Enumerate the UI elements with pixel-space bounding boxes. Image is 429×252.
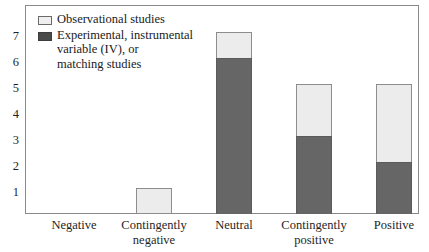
legend-label-experimental-line2: variable (IV), or xyxy=(57,42,139,56)
y-axis: 7 6 5 4 3 2 1 xyxy=(0,0,22,252)
legend-item-observational: Observational studies xyxy=(38,12,268,27)
bar-contingently-positive xyxy=(296,84,332,214)
bar-segment-experimental xyxy=(296,136,332,214)
bar-positive xyxy=(376,84,412,214)
y-tick-label-3: 3 xyxy=(13,134,19,146)
chart-legend: Observational studies Experimental, inst… xyxy=(38,12,268,72)
y-tick-label-1: 1 xyxy=(13,186,19,198)
x-tick-label-contingently-negative-line2: negative xyxy=(106,233,202,248)
legend-label-experimental: Experimental, instrumental variable (IV)… xyxy=(57,28,193,72)
y-tick-label-4: 4 xyxy=(13,108,19,120)
y-tick-label-7: 7 xyxy=(13,30,19,42)
bar-segment-observational xyxy=(136,188,172,214)
bar-segment-observational xyxy=(296,84,332,136)
x-tick-label-positive: Positive xyxy=(346,218,429,233)
bar-segment-experimental xyxy=(216,58,252,214)
legend-label-observational: Observational studies xyxy=(57,12,165,27)
bar-segment-observational xyxy=(376,84,412,162)
legend-swatch-dark-icon xyxy=(38,32,52,41)
x-axis: Negative Contingently negative Neutral C… xyxy=(25,218,419,252)
x-tick-label-positive-line1: Positive xyxy=(346,218,429,233)
y-tick-label-5: 5 xyxy=(13,82,19,94)
stacked-bar-chart: 7 6 5 4 3 2 1 xyxy=(0,0,429,252)
y-tick-label-6: 6 xyxy=(13,56,19,68)
legend-item-experimental: Experimental, instrumental variable (IV)… xyxy=(38,28,268,72)
legend-label-experimental-line1: Experimental, instrumental xyxy=(57,28,193,42)
legend-swatch-light-icon xyxy=(38,16,52,25)
y-tick-label-2: 2 xyxy=(13,160,19,172)
legend-label-experimental-line3: matching studies xyxy=(57,57,141,71)
bar-contingently-negative xyxy=(136,188,172,214)
x-tick-label-contingently-positive-line2: positive xyxy=(266,233,362,248)
bar-segment-experimental xyxy=(376,162,412,214)
